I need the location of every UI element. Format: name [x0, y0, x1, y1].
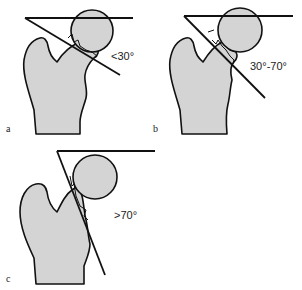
- panel-a: <30° a: [6, 10, 134, 134]
- angle-label-a: <30°: [111, 50, 134, 62]
- angle-label-b: 30°-70°: [250, 60, 287, 72]
- femur-proximal-c: [20, 184, 90, 284]
- panel-b: 30°-70° b: [153, 8, 293, 134]
- femoral-head-c: [73, 155, 117, 199]
- fracture-classification-diagram: <30° a 30°-70° b >70° c: [0, 0, 302, 290]
- femur-proximal-a: [24, 38, 98, 134]
- panel-letter-c: c: [6, 273, 11, 284]
- angle-label-c: >70°: [114, 209, 137, 221]
- panel-letter-b: b: [153, 123, 158, 134]
- femoral-head-a: [71, 10, 113, 52]
- panel-letter-a: a: [6, 123, 11, 134]
- panel-c: >70° c: [6, 151, 155, 284]
- femur-proximal-b: [170, 38, 237, 134]
- femoral-head-b: [218, 8, 262, 52]
